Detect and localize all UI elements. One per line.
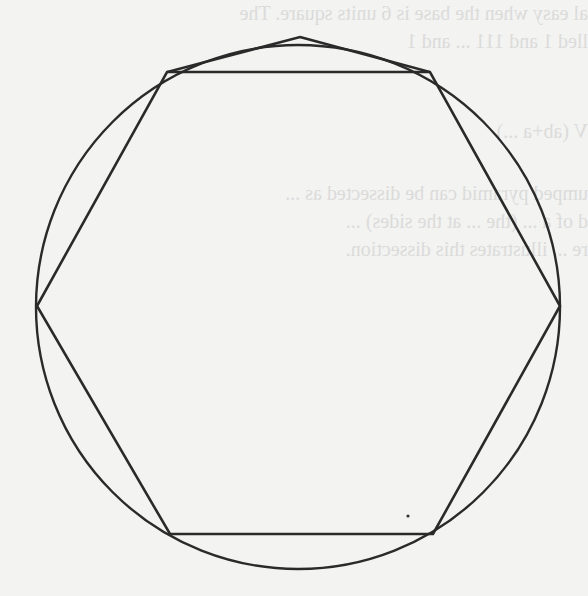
inscribed-polygon <box>37 37 560 534</box>
speck <box>406 514 409 517</box>
circumscribed-circle <box>36 45 560 569</box>
geometry-figure <box>0 0 588 596</box>
